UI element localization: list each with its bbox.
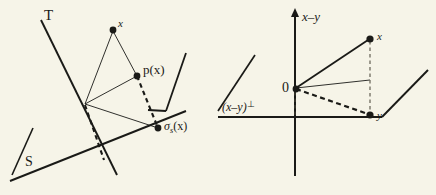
figure-vector-canvas [0, 0, 436, 195]
label-subspace-T: T [44, 8, 53, 23]
line-vertex-to-px [85, 76, 137, 104]
figure-container: T S x p(x) σs(x) x–y 0 x y (x–y)⊥ [0, 0, 436, 195]
line-plane-right-edge [382, 70, 428, 117]
line-x-to-px [113, 31, 137, 76]
label-point-y-right: y [377, 110, 382, 121]
line-subspace-T [41, 20, 117, 175]
label-perp-symbol: ⊥ [247, 99, 255, 109]
line-plane-T-bottom-edge [148, 110, 166, 111]
point-origin [293, 86, 300, 93]
line-vertex-to-sigma [85, 104, 158, 128]
label-origin-zero: 0 [282, 81, 289, 95]
label-projection-p-of-x: p(x) [143, 63, 165, 76]
point-sigma-s-of-x [155, 125, 162, 132]
dashed-origin-to-y [296, 89, 368, 114]
point-x [110, 27, 117, 34]
label-point-x-right: x [377, 31, 382, 42]
line-subspace-S [10, 111, 186, 181]
line-vertex-to-x [85, 31, 113, 104]
right-diagram-group [218, 8, 428, 176]
point-p-of-x [134, 73, 141, 80]
point-y-right [366, 111, 373, 118]
label-plane-expression: (x–y) [222, 100, 247, 114]
label-sigma-argument: (x) [173, 119, 187, 133]
label-plane-x-minus-y-perp: (x–y)⊥ [222, 100, 255, 113]
label-axis-x-minus-y: x–y [302, 10, 320, 23]
line-plane-T-right-edge [166, 53, 186, 111]
point-x-right [366, 35, 373, 42]
axis-arrowhead-icon [291, 8, 299, 17]
left-diagram-group [10, 20, 186, 181]
label-subspace-S: S [25, 155, 33, 169]
dashed-px-to-sigma [137, 76, 158, 128]
dashed-vertex-hidden-edge [85, 105, 104, 160]
label-reflection-sigma-s-of-x: σs(x) [164, 120, 187, 135]
line-origin-to-x [296, 40, 368, 88]
label-point-x: x [118, 18, 123, 29]
